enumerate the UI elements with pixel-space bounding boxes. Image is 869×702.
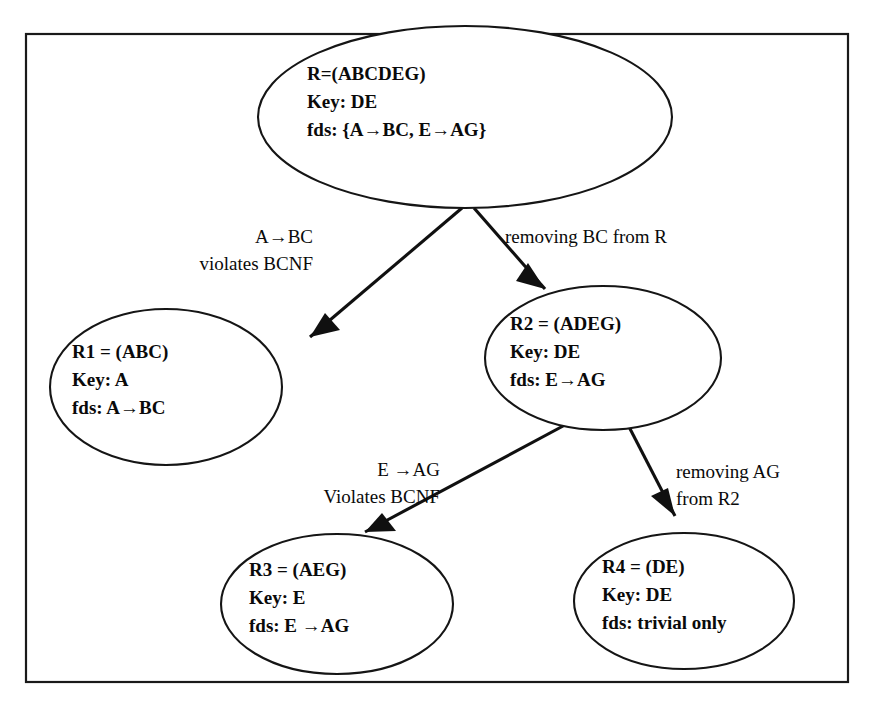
node-r[interactable]: R=(ABCDEG)Key: DEfds: {A→BC, E→AG} — [258, 26, 672, 208]
edge-r2-to-r4: removing AGfrom R2 — [626, 421, 780, 516]
node-r3-line-1: Key: E — [249, 587, 305, 608]
edge-r-to-r2: removing BC from R — [474, 208, 667, 289]
node-r2-line-0: R2 = (ADEG) — [510, 313, 621, 335]
node-r2[interactable]: R2 = (ADEG)Key: DEfds: E→AG — [485, 286, 721, 430]
edge-label-r2-to-r3-line-1: Violates BCNF — [323, 486, 440, 507]
edge-r2-to-r3: E →AGViolates BCNF — [323, 418, 578, 532]
node-r4-line-1: Key: DE — [602, 584, 672, 605]
node-r1-line-2: fds: A→BC — [72, 397, 165, 418]
arrow-head-icon-r2-to-r4 — [651, 488, 675, 516]
node-r-line-0: R=(ABCDEG) — [307, 63, 426, 85]
node-r1[interactable]: R1 = (ABC)Key: Afds: A→BC — [50, 309, 282, 465]
edge-label-r-to-r1-line-0: A→BC — [255, 226, 313, 247]
node-r2-line-2: fds: E→AG — [510, 369, 606, 390]
bcnf-decomposition-diagram: A→BCviolates BCNFremoving BC from RE →AG… — [0, 0, 869, 702]
node-r1-line-0: R1 = (ABC) — [72, 341, 168, 363]
edge-line-r-to-r1 — [310, 208, 462, 337]
diagram-canvas: A→BCviolates BCNFremoving BC from RE →AG… — [0, 0, 869, 702]
node-r3[interactable]: R3 = (AEG)Key: Efds: E →AG — [221, 534, 453, 674]
arrow-head-icon-r-to-r2 — [516, 263, 545, 289]
arrow-head-icon-r2-to-r3 — [365, 513, 396, 532]
edge-label-r2-to-r4-line-0: removing AG — [676, 461, 780, 482]
node-layer: R=(ABCDEG)Key: DEfds: {A→BC, E→AG}R1 = (… — [50, 26, 794, 674]
edge-label-r-to-r2-line-0: removing BC from R — [505, 226, 667, 247]
edge-label-r-to-r1-line-1: violates BCNF — [200, 253, 313, 274]
edge-r-to-r1: A→BCviolates BCNF — [200, 208, 462, 337]
node-r-line-1: Key: DE — [307, 91, 377, 112]
node-r3-line-2: fds: E →AG — [249, 615, 350, 636]
node-r2-line-1: Key: DE — [510, 341, 580, 362]
node-r4-line-2: fds: trivial only — [602, 612, 727, 633]
edge-label-r2-to-r4-line-1: from R2 — [676, 488, 740, 509]
edge-label-r2-to-r3-line-0: E →AG — [377, 459, 440, 480]
node-r-line-2: fds: {A→BC, E→AG} — [307, 119, 486, 140]
node-r4-line-0: R4 = (DE) — [602, 556, 685, 578]
node-r4[interactable]: R4 = (DE)Key: DEfds: trivial only — [574, 533, 794, 669]
ellipse-r — [258, 26, 672, 208]
node-r1-line-1: Key: A — [72, 369, 129, 390]
node-r3-line-0: R3 = (AEG) — [249, 559, 346, 581]
